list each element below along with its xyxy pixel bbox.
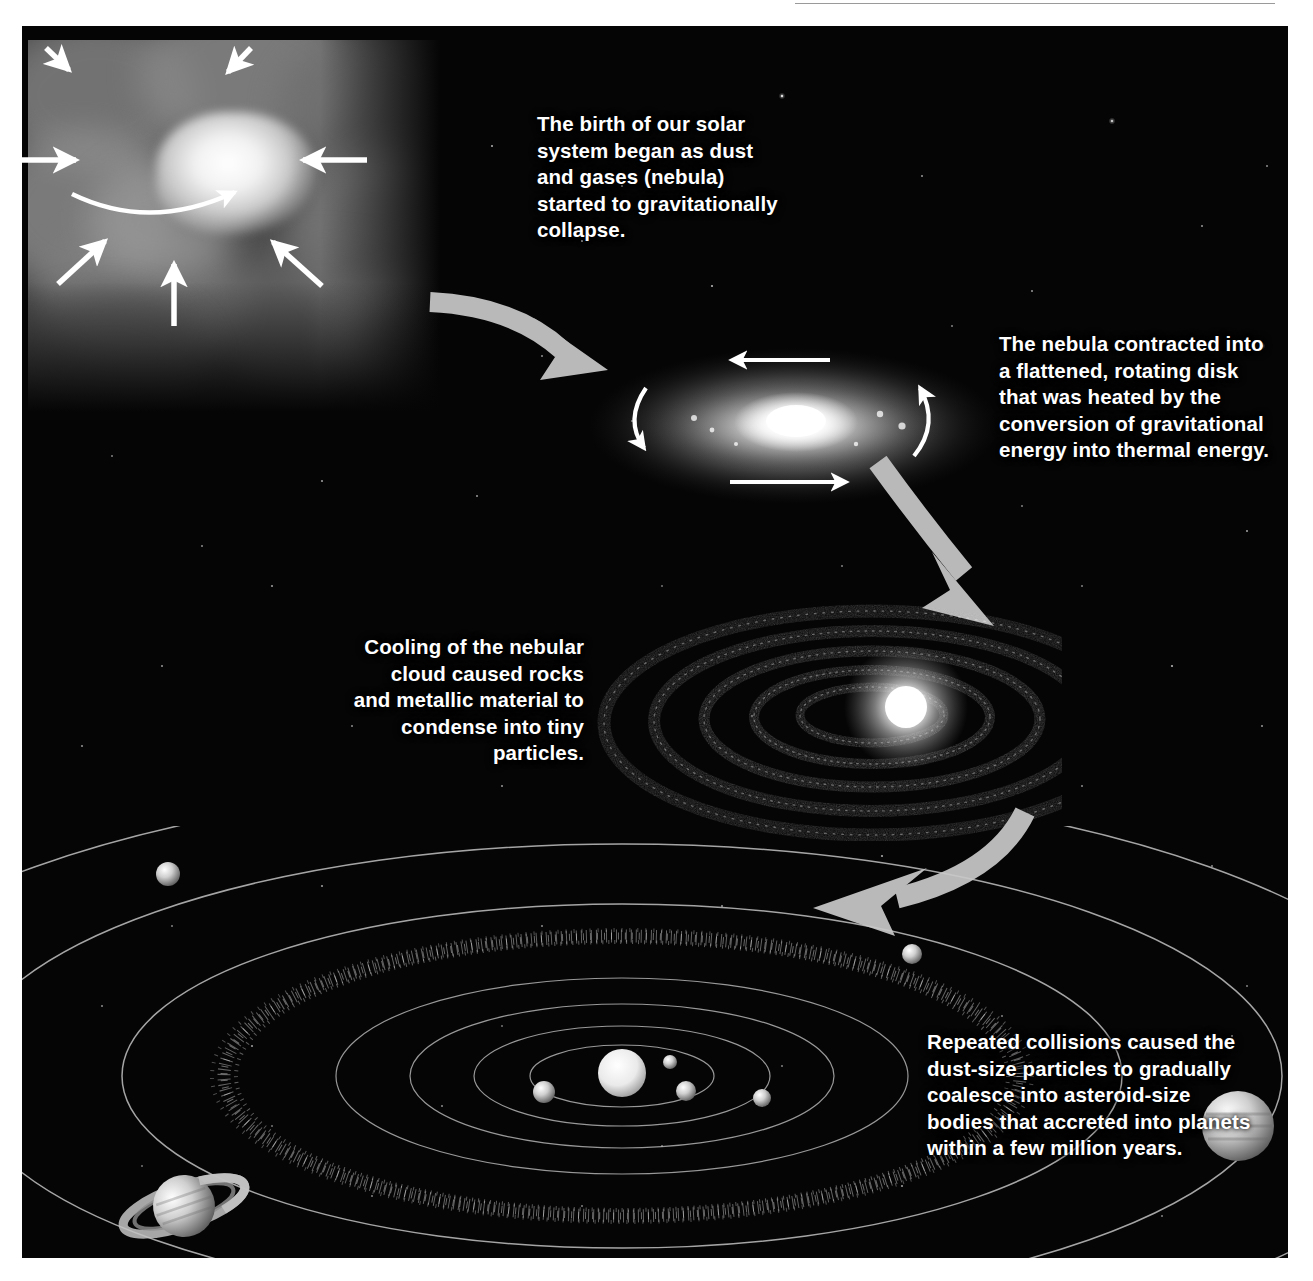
caption-accretion: Repeated collisions caused the dust-size… <box>927 1029 1288 1162</box>
planet-earth <box>533 1081 555 1103</box>
collapse-arrow-bottom-left <box>58 241 105 284</box>
top-rule-fragment <box>795 3 1275 4</box>
collapse-arrow-bottom-right <box>273 242 322 286</box>
figure-root: The birth of our solar system began as d… <box>0 0 1313 1281</box>
planet-mercury <box>663 1055 677 1069</box>
stage-condensing-rings <box>542 581 1062 841</box>
caption-condensation: Cooling of the nebular cloud caused rock… <box>284 634 584 767</box>
stage-rotating-disk <box>584 326 1004 526</box>
planet-mars <box>753 1089 771 1107</box>
collapse-arrow-top-left <box>46 48 69 70</box>
nebula-collapse-arrows <box>22 26 492 426</box>
sun <box>598 1049 646 1097</box>
caption-disk: The nebula contracted into a flattened, … <box>999 331 1288 464</box>
collapse-arrow-top-right <box>228 48 251 72</box>
planet-saturn <box>113 1156 254 1256</box>
margin-bottom <box>0 1258 1313 1281</box>
planet-neptune <box>902 944 922 964</box>
planet-venus <box>676 1081 696 1101</box>
caption-nebula: The birth of our solar system began as d… <box>537 111 857 244</box>
margin-right <box>1288 0 1313 1281</box>
margin-left <box>0 0 22 1281</box>
planet-uranus <box>156 862 180 886</box>
space-scene: The birth of our solar system began as d… <box>22 26 1288 1258</box>
nebula-rotation-arrow <box>72 192 235 213</box>
